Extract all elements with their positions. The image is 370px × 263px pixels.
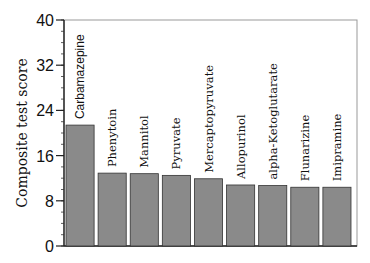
category-label: Flunarizine [298,115,312,182]
y-tick-label: 16 [36,148,54,165]
category-label: Carbamazepine [73,34,87,119]
category-label: Mercaptopyruvate [202,65,216,173]
bar-pyruvate [162,175,190,246]
y-tick-label: 24 [36,102,54,119]
y-tick-label: 32 [36,57,54,74]
bar-mannitol [130,174,158,246]
category-label: alpha-Ketoglutarate [266,63,280,180]
bar-alpha-ketoglutarate [259,186,287,246]
category-label: Pyruvate [169,117,183,169]
bar-flunarizine [291,187,319,246]
category-label: Phenytoin [105,108,119,167]
bar-allopurinol [227,185,255,246]
y-axis-title: Composite test score [14,58,30,207]
y-axis-label: Composite test score [14,58,30,207]
bar-chart: Composite test score 0816243240Carbamaze… [0,0,370,263]
category-label: Allopurinol [234,114,248,180]
y-tick-label: 40 [36,12,54,29]
bar-carbamazepine [66,125,94,246]
bar-phenytoin [98,173,126,246]
y-tick-label: 0 [45,238,54,255]
category-label: Mannitol [137,115,151,168]
bar-imipramine [323,187,351,246]
bar-mercaptopyruvate [194,179,222,246]
y-tick-label: 8 [45,193,54,210]
plot-area: 0816243240CarbamazepinePhenytoinMannitol… [36,12,357,255]
category-label: Imipramine [330,113,344,181]
